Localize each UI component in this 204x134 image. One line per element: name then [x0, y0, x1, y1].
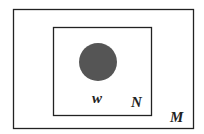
label-M: M: [169, 109, 184, 125]
venn-diagram: w N M: [0, 0, 204, 134]
element-w-disk: [79, 43, 117, 81]
label-N: N: [130, 94, 143, 110]
label-w: w: [92, 90, 103, 106]
